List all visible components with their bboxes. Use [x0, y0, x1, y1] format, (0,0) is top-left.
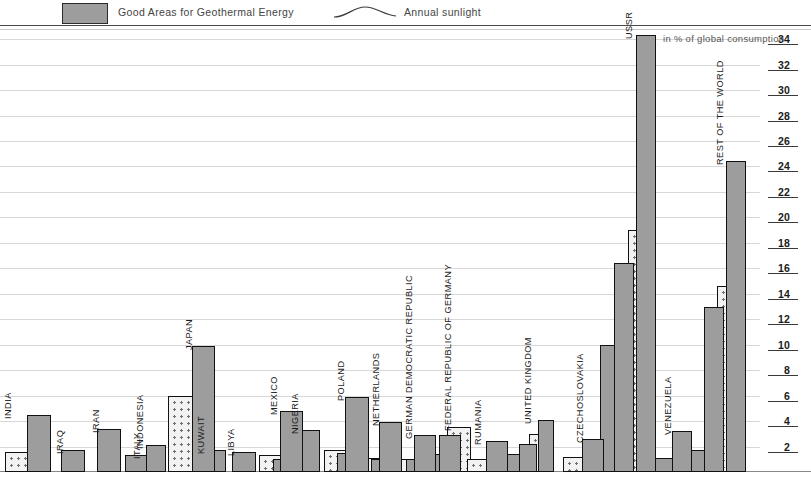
bar	[439, 435, 461, 472]
bar	[704, 307, 724, 472]
category-label: USSR	[624, 12, 634, 39]
category-label: NETHERLANDS	[371, 353, 381, 426]
category-label: REST OF THE WORLD	[715, 61, 725, 166]
bar	[27, 415, 51, 472]
bar-group: REST OF THE WORLD	[691, 30, 753, 472]
category-label: JAPAN	[184, 319, 194, 350]
bar	[486, 441, 508, 472]
bar-group: IRAN	[97, 30, 123, 472]
category-label: KUWAIT	[196, 416, 206, 454]
bar	[726, 161, 746, 472]
y-axis-tick-label: 14	[764, 288, 790, 300]
bar-group: USSR	[600, 30, 660, 472]
geothermal-swatch-icon	[62, 3, 108, 24]
bar	[614, 263, 634, 472]
category-label: NIGERIA	[290, 393, 300, 434]
bar	[414, 435, 436, 472]
bar	[519, 444, 537, 472]
category-label: VENEZUELA	[663, 377, 673, 436]
category-label: INDIA	[3, 392, 13, 419]
y-axis-tick-label: 30	[764, 84, 790, 96]
chart-legend: Good Areas for Geothermal Energy Annual …	[0, 0, 811, 26]
category-label: IRAN	[91, 409, 101, 433]
legend-geothermal-label: Good Areas for Geothermal Energy	[118, 6, 294, 18]
bar	[636, 35, 656, 472]
category-label: RUMANIA	[473, 400, 483, 446]
bar-group: IRAQ	[61, 30, 87, 472]
y-axis-tick-label: 20	[764, 211, 790, 223]
chart-root: Good Areas for Geothermal Energy Annual …	[0, 0, 811, 487]
category-label: UNITED KINGDOM	[523, 337, 533, 424]
bar	[5, 452, 29, 472]
category-label: CZECHOSLOVAKIA	[575, 353, 585, 443]
bar-group: UNITED KINGDOM	[507, 30, 559, 472]
category-label: POLAND	[336, 360, 346, 400]
category-label: LIBYA	[226, 428, 236, 456]
bar	[672, 431, 692, 472]
category-label: IRAQ	[55, 430, 65, 454]
y-axis-tick-label: 32	[764, 59, 790, 71]
y-axis-tick-label: 4	[764, 415, 790, 427]
plot-area: INDIAIRAQIRANINDONESIAITALYJAPANKUWAITLI…	[0, 30, 811, 472]
bar-group: RUMANIA	[467, 30, 512, 472]
bar	[168, 396, 193, 472]
category-label: MEXICO	[269, 376, 279, 415]
bar-group: NIGERIA	[296, 30, 322, 472]
bar-group: INDIA	[5, 30, 53, 472]
legend-sunlight-label: Annual sunlight	[404, 6, 481, 18]
y-axis-tick-label: 12	[764, 313, 790, 325]
bar	[345, 397, 369, 472]
category-label: ITALY	[132, 433, 142, 459]
y-axis-tick-label: 16	[764, 262, 790, 274]
y-axis-tick-label: 8	[764, 364, 790, 376]
y-axis-tick-label: 26	[764, 135, 790, 147]
y-axis-tick-label: 6	[764, 390, 790, 402]
y-axis-tick-label: 10	[764, 339, 790, 351]
bar	[379, 422, 402, 472]
bar	[538, 420, 554, 472]
y-axis-tick-label: 24	[764, 160, 790, 172]
category-label: FEDERAL REPUBLIC OF GERMANY	[443, 264, 453, 431]
bar	[97, 429, 121, 472]
axis-note: in % of global consumption	[663, 33, 784, 44]
category-label: GERMAN DEMOCRATIC REPUBLIC	[404, 275, 414, 439]
y-axis-tick-label: 2	[764, 441, 790, 453]
y-axis-tick-label: 18	[764, 237, 790, 249]
y-axis-tick-label: 22	[764, 186, 790, 198]
annual-sunlight-curve-icon	[333, 4, 397, 20]
bar	[146, 445, 166, 472]
y-axis-tick-label: 28	[764, 110, 790, 122]
bar	[582, 439, 604, 472]
legend-divider	[0, 25, 811, 26]
bar-group: LIBYA	[232, 30, 258, 472]
